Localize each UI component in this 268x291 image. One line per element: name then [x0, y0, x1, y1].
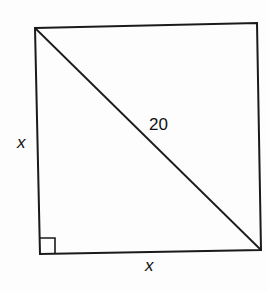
diagonal-line	[35, 28, 261, 250]
left-side-label: x	[16, 133, 26, 152]
bottom-side-label: x	[144, 256, 154, 275]
square-diagram: 20 x x	[0, 0, 268, 291]
diagonal-label: 20	[149, 115, 168, 134]
right-angle-marker	[40, 238, 55, 254]
